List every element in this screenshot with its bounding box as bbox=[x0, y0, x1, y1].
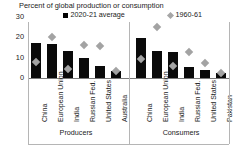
bar bbox=[184, 67, 194, 78]
diamond-marker-icon bbox=[169, 62, 177, 70]
diamond-marker-icon bbox=[217, 69, 225, 77]
chart-container: Percent of global production or consumpt… bbox=[0, 0, 237, 145]
chart-title: Percent of global production or consumpt… bbox=[19, 1, 164, 10]
group-separator-line bbox=[129, 22, 130, 144]
y-axis-tick-label: 20 bbox=[8, 33, 24, 41]
bar bbox=[79, 58, 89, 78]
diamond-marker-icon bbox=[32, 57, 40, 65]
x-axis-category-label: India bbox=[177, 80, 186, 122]
bar bbox=[200, 70, 210, 78]
x-axis-category-label: Russian Fed. bbox=[193, 80, 202, 122]
diamond-marker-icon bbox=[64, 65, 72, 73]
x-axis-category-label: Russian Fed. bbox=[88, 80, 97, 122]
diamond-marker bbox=[49, 34, 55, 40]
diamond-marker-icon bbox=[112, 67, 120, 75]
bar bbox=[47, 44, 57, 78]
group-label: Consumers bbox=[133, 128, 229, 137]
y-axis-tick-label: 0 bbox=[8, 74, 24, 82]
x-axis-category-label: India bbox=[72, 80, 81, 122]
bar bbox=[152, 51, 162, 78]
diamond-marker-icon bbox=[201, 59, 209, 67]
group-label: Producers bbox=[28, 128, 124, 137]
diamond-marker-icon bbox=[185, 47, 193, 55]
diamond-marker bbox=[113, 68, 119, 74]
diamond-marker bbox=[170, 63, 176, 69]
x-axis-category-label: China bbox=[40, 80, 49, 122]
x-axis-category-label: European Union bbox=[161, 80, 170, 122]
diamond-marker-icon bbox=[80, 41, 88, 49]
diamond-marker-icon bbox=[137, 54, 145, 62]
diamond-marker-icon bbox=[48, 33, 56, 41]
diamond-marker bbox=[65, 66, 71, 72]
diamond-marker bbox=[138, 56, 144, 62]
bottom-rule bbox=[28, 144, 229, 145]
x-axis-category-label: China bbox=[145, 80, 154, 122]
bar bbox=[95, 66, 105, 78]
diamond-marker bbox=[202, 60, 208, 66]
diamond-marker bbox=[81, 42, 87, 48]
x-axis-category-label: United States bbox=[104, 80, 113, 122]
y-axis-tick-label: 30 bbox=[8, 13, 24, 21]
x-axis-category-label: European Union bbox=[56, 80, 65, 122]
group-separator-line bbox=[28, 22, 29, 144]
diamond-marker bbox=[97, 43, 103, 49]
diamond-marker bbox=[154, 24, 160, 30]
x-axis-category-label: Australia bbox=[120, 80, 129, 122]
diamond-marker bbox=[33, 59, 39, 65]
group-separator-line bbox=[229, 22, 230, 144]
diamond-marker bbox=[218, 70, 224, 76]
y-axis-tick-label: 10 bbox=[8, 54, 24, 62]
diamond-marker bbox=[186, 49, 192, 55]
x-axis-category-label: United States bbox=[209, 80, 218, 122]
diamond-marker-icon bbox=[96, 42, 104, 50]
diamond-marker-icon bbox=[153, 23, 161, 31]
